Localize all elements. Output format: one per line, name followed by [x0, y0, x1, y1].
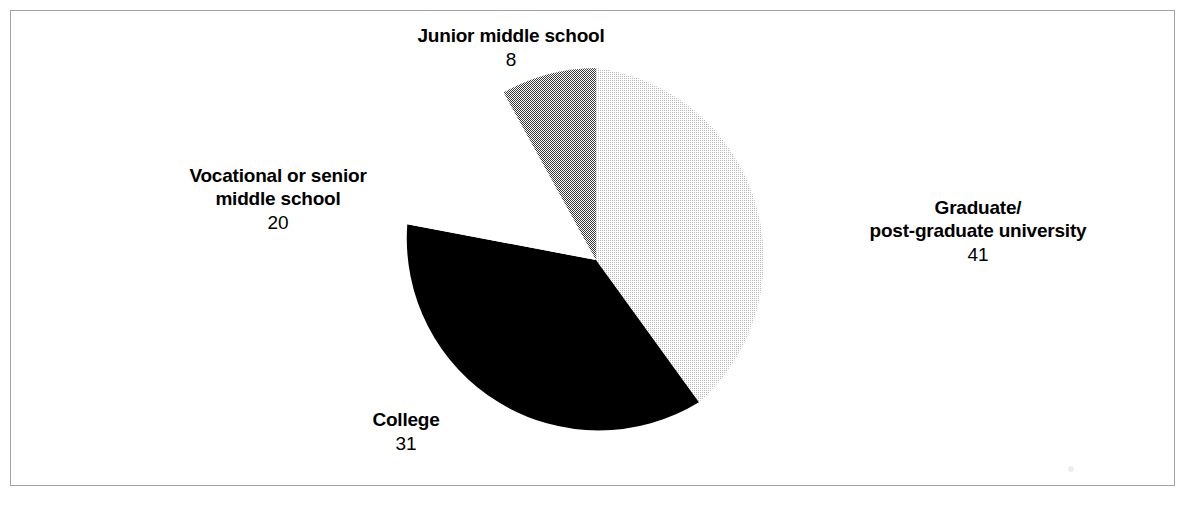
pie-chart: Junior middle school 8 Graduate/ post-gr… [0, 0, 1189, 506]
scan-speck-artifact [1068, 466, 1074, 472]
pie-label-graduate-university: Graduate/ post-graduate university 41 [818, 196, 1138, 267]
pie-label-vocational-value: 20 [128, 211, 428, 234]
pie-label-graduate-value: 41 [818, 243, 1138, 266]
pie-label-vocational-senior-middle-school: Vocational or senior middle school 20 [128, 164, 428, 235]
pie-label-vocational-name: Vocational or senior middle school [128, 164, 428, 210]
pie-label-graduate-name: Graduate/ post-graduate university [818, 196, 1138, 242]
pie-label-junior-name: Junior middle school [346, 24, 676, 47]
pie-svg [404, 68, 788, 452]
pie-label-junior-value: 8 [346, 48, 676, 71]
pie-label-college: College 31 [296, 408, 516, 455]
pie-label-college-value: 31 [296, 432, 516, 455]
pie-label-junior-middle-school: Junior middle school 8 [346, 24, 676, 71]
chart-page: Junior middle school 8 Graduate/ post-gr… [0, 0, 1189, 506]
pie-label-college-name: College [296, 408, 516, 431]
